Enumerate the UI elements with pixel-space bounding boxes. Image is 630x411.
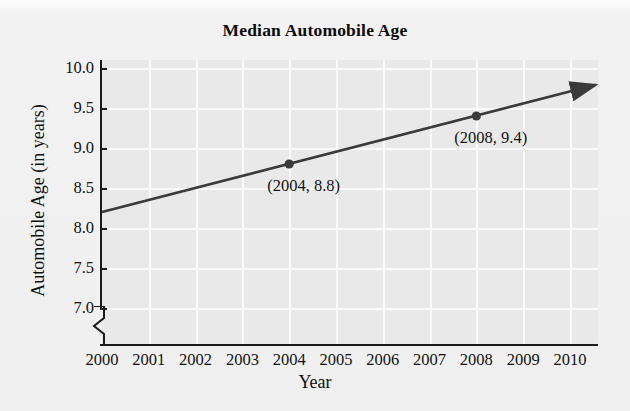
y-tick-mark xyxy=(100,268,107,270)
y-tick-mark xyxy=(100,68,107,70)
y-tick-mark xyxy=(100,148,107,150)
gridline-vertical xyxy=(242,60,244,345)
chart-screenshot: Median Automobile Age 10.09.59.08.58.07.… xyxy=(0,0,630,411)
gridline-horizontal xyxy=(102,68,598,70)
y-tick-mark xyxy=(100,188,107,190)
gridline-horizontal xyxy=(102,188,598,190)
y-tick-label: 9.0 xyxy=(48,140,94,156)
chart-title: Median Automobile Age xyxy=(0,20,630,41)
x-axis-title: Year xyxy=(0,372,630,393)
y-tick-label: 8.5 xyxy=(48,180,94,196)
y-tick-label: 7.0 xyxy=(48,300,94,316)
x-axis-line xyxy=(100,344,598,346)
gridline-vertical xyxy=(196,60,198,345)
y-axis-line xyxy=(100,60,102,310)
y-tick-label: 8.0 xyxy=(48,220,94,236)
gridline-vertical xyxy=(476,60,478,345)
y-axis-break-icon xyxy=(92,306,114,346)
y-tick-mark xyxy=(100,308,107,310)
plot-area xyxy=(102,60,598,345)
y-tick-mark xyxy=(100,108,107,110)
gridline-horizontal xyxy=(102,148,598,150)
gridline-vertical xyxy=(149,60,151,345)
point-annotation: (2008, 9.4) xyxy=(454,128,527,148)
gridline-vertical xyxy=(289,60,291,345)
gridline-vertical xyxy=(523,60,525,345)
gridline-horizontal xyxy=(102,228,598,230)
y-tick-label: 9.5 xyxy=(48,100,94,116)
y-tick-mark xyxy=(100,228,107,230)
gridline-vertical xyxy=(430,60,432,345)
gridline-horizontal xyxy=(102,108,598,110)
gridline-horizontal xyxy=(102,268,598,270)
x-tick-label: 2010 xyxy=(540,350,600,370)
gridline-vertical xyxy=(570,60,572,345)
y-tick-label: 7.5 xyxy=(48,260,94,276)
point-annotation: (2004, 8.8) xyxy=(267,176,340,196)
gridline-horizontal xyxy=(102,308,598,310)
y-tick-label: 10.0 xyxy=(48,60,94,76)
median-automobile-age-chart: Median Automobile Age 10.09.59.08.58.07.… xyxy=(0,0,630,411)
gridline-vertical xyxy=(383,60,385,345)
y-axis-title: Automobile Age (in years) xyxy=(28,71,49,331)
gridline-vertical xyxy=(336,60,338,345)
